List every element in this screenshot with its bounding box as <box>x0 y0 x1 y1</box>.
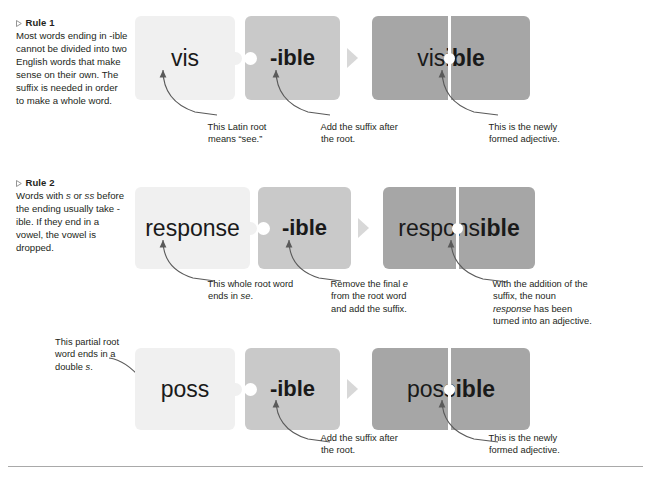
flow-arrow-icon <box>347 48 358 68</box>
annotation-suffix-2: Remove the final e from the root word an… <box>323 278 423 315</box>
puzzle-tab-icon <box>244 222 257 235</box>
rule-1-heading: Rule 1 <box>16 17 128 28</box>
annotation-curve-root <box>155 62 219 124</box>
annotation-result-3: This is the newly formed adjective. <box>481 432 575 457</box>
annotation-result-1: This is the newly formed adjective. <box>481 121 575 146</box>
annotation-curve-suffix <box>268 62 332 124</box>
puzzle-notch-icon <box>244 52 257 65</box>
rule-2-heading-label: Rule 2 <box>26 177 55 188</box>
annotation-root-1: This Latin root means “see.” <box>200 121 288 146</box>
rule-1-body: Most words ending in -ible cannot be div… <box>16 29 128 108</box>
rule-block-2: Rule 2 Words with s or ss before the end… <box>16 177 128 254</box>
rule-2-heading: Rule 2 <box>16 177 128 188</box>
annotation-suffix-1: Add the suffix after the root. <box>313 121 403 146</box>
puzzle-notch-icon <box>257 222 270 235</box>
puzzle-tab-icon <box>229 383 242 396</box>
annotation-suffix-3: Add the suffix after the root. <box>313 432 403 457</box>
bottom-divider <box>8 466 643 467</box>
triangle-bullet-icon <box>16 180 22 187</box>
puzzle-tab-icon <box>229 52 242 65</box>
rule-1-heading-label: Rule 1 <box>26 17 55 28</box>
annotation-root-2: This whole root word ends in se. <box>200 278 294 303</box>
annotation-curve-result <box>434 62 500 124</box>
root-card-label: poss <box>161 378 210 401</box>
triangle-bullet-icon <box>16 20 22 27</box>
annotation-result-2: With the addition of the suffix, the nou… <box>485 278 593 328</box>
root-card-poss[interactable]: poss <box>135 348 235 430</box>
puzzle-notch-icon <box>244 383 257 396</box>
rule-block-1: Rule 1 Most words ending in -ible cannot… <box>16 17 128 108</box>
rule-2-body: Words with s or ss before the ending usu… <box>16 189 128 254</box>
flow-arrow-icon <box>358 218 369 238</box>
flow-arrow-icon <box>347 379 358 399</box>
